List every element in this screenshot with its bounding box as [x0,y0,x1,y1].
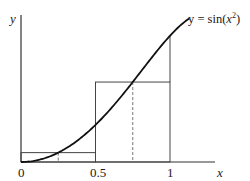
function-label: y = sin(x2) [188,12,240,26]
x-axis-label: x [217,166,223,179]
x-tick-0-5: 0.5 [90,166,106,179]
x-tick-1: 1 [167,166,174,179]
y-axis-label: y [10,12,16,25]
midpoint-rectangles [21,36,170,162]
function-label-prefix: y = sin( [188,12,226,26]
chart-canvas [0,0,250,181]
function-label-suffix: ) [236,12,240,26]
x-tick-0: 0 [18,166,25,179]
sine-x-squared-curve [21,18,189,162]
